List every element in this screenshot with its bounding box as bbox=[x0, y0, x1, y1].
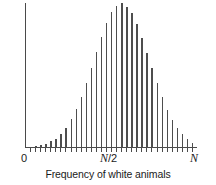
x-axis-tick bbox=[50, 148, 51, 152]
distribution-bar bbox=[157, 83, 158, 148]
distribution-bar bbox=[187, 139, 188, 148]
x-axis-tick bbox=[96, 148, 97, 152]
x-axis-tick bbox=[172, 148, 173, 152]
x-axis-tick bbox=[157, 148, 158, 152]
x-axis-tick bbox=[30, 148, 31, 152]
x-axis-tick bbox=[182, 148, 183, 152]
x-tick-label-half: N/2 bbox=[100, 152, 117, 165]
x-axis-tick bbox=[177, 148, 178, 152]
distribution-bar bbox=[167, 110, 168, 148]
x-tick-label-half-symbol: N bbox=[100, 151, 108, 165]
x-tick-label-half-suffix: /2 bbox=[108, 152, 117, 164]
distribution-bar bbox=[126, 7, 127, 148]
x-axis-tick bbox=[45, 148, 46, 152]
x-axis-tick bbox=[40, 148, 41, 152]
distribution-bar bbox=[121, 3, 122, 148]
x-axis-tick bbox=[76, 148, 77, 152]
distribution-bar bbox=[96, 52, 97, 148]
x-axis-tick bbox=[86, 148, 87, 152]
x-axis-tick bbox=[91, 148, 92, 152]
x-axis-tick bbox=[162, 148, 163, 152]
x-axis-tick bbox=[136, 148, 137, 152]
plot-area bbox=[25, 3, 197, 148]
distribution-bar bbox=[91, 68, 92, 148]
x-axis-tick bbox=[71, 148, 72, 152]
distribution-bar bbox=[106, 23, 107, 148]
distribution-bar bbox=[101, 37, 102, 148]
distribution-bar bbox=[182, 134, 183, 148]
distribution-bar bbox=[76, 109, 77, 148]
distribution-bar bbox=[136, 24, 137, 148]
x-axis-label: Frequency of white animals bbox=[0, 168, 216, 181]
distribution-bar bbox=[162, 97, 163, 148]
probability-distribution-figure: Probability 0 N/2 N Frequency of white a… bbox=[0, 0, 216, 185]
x-axis-tick bbox=[35, 148, 36, 152]
distribution-bar bbox=[116, 6, 117, 148]
x-axis-tick bbox=[151, 148, 152, 152]
x-axis-tick bbox=[146, 148, 147, 152]
distribution-bar bbox=[131, 13, 132, 148]
distribution-bar bbox=[177, 128, 178, 148]
distribution-bar bbox=[111, 12, 112, 148]
x-axis-tick bbox=[187, 148, 188, 152]
x-axis-tick bbox=[121, 148, 122, 152]
x-axis-tick bbox=[65, 148, 66, 152]
x-tick-label-zero: 0 bbox=[21, 152, 27, 165]
x-axis-tick bbox=[167, 148, 168, 152]
x-axis-tick bbox=[60, 148, 61, 152]
distribution-bar bbox=[172, 120, 173, 148]
x-axis-tick bbox=[141, 148, 142, 152]
x-axis-tick bbox=[126, 148, 127, 152]
distribution-bar bbox=[71, 119, 72, 148]
x-axis-tick bbox=[81, 148, 82, 152]
x-axis-tick bbox=[131, 148, 132, 152]
distribution-bar bbox=[55, 139, 56, 148]
distribution-bar bbox=[86, 83, 87, 148]
x-axis-tick bbox=[55, 148, 56, 152]
x-tick-label-n-symbol: N bbox=[190, 151, 198, 165]
distribution-bar bbox=[146, 53, 147, 148]
distribution-bar bbox=[151, 68, 152, 148]
x-tick-label-n: N bbox=[190, 152, 198, 165]
distribution-bar bbox=[141, 38, 142, 148]
distribution-bar bbox=[60, 134, 61, 149]
distribution-bar bbox=[81, 97, 82, 148]
distribution-bar bbox=[65, 128, 66, 148]
